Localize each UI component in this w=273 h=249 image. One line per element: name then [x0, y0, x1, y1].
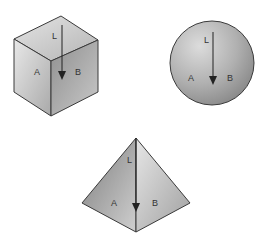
pyramid-face-a — [82, 138, 136, 232]
sphere-body — [170, 21, 254, 105]
sphere-label-b: B — [227, 73, 233, 83]
cube-figure: L A B — [14, 16, 98, 116]
pyramid-label-a: A — [111, 198, 117, 208]
cube-label-b: B — [75, 67, 81, 77]
cube-label-a: A — [34, 67, 40, 77]
diagram-canvas: L A B L A B L A B — [0, 0, 273, 249]
sphere-label-l: L — [204, 35, 209, 45]
sphere-label-a: A — [188, 73, 194, 83]
sphere-figure: L A B — [170, 21, 254, 105]
pyramid-label-l: L — [127, 155, 132, 165]
pyramid-label-b: B — [152, 198, 158, 208]
pyramid-figure: L A B — [82, 138, 190, 232]
cube-label-l: L — [52, 31, 57, 41]
pyramid-face-b — [136, 138, 190, 232]
